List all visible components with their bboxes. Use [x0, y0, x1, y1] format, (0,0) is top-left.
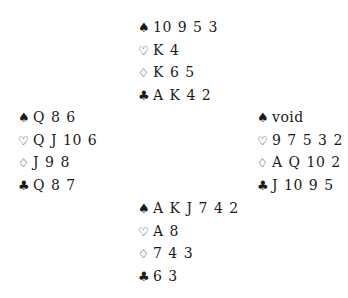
heart-icon: ♡	[18, 130, 33, 153]
south-hand: ♠A K J 7 4 2 ♡A 8 ♢7 4 3 ♣6 3	[138, 197, 239, 287]
north-hand: ♠10 9 5 3 ♡K 4 ♢K 6 5 ♣A K 4 2	[138, 16, 218, 106]
spade-icon: ♠	[138, 198, 153, 221]
west-hearts-row: ♡Q J 10 6	[18, 129, 97, 152]
west-hand: ♠Q 8 6 ♡Q J 10 6 ♢J 9 8 ♣Q 8 7	[18, 106, 97, 196]
east-diamonds-row: ♢A Q 10 2	[257, 151, 343, 174]
diamond-icon: ♢	[257, 152, 272, 175]
spade-icon: ♠	[257, 107, 272, 130]
club-icon: ♣	[257, 175, 272, 198]
east-clubs-row: ♣J 10 9 5	[257, 174, 343, 197]
east-spades-row: ♠void	[257, 106, 343, 129]
north-spades: 10 9 5 3	[153, 19, 218, 35]
north-clubs: A K 4 2	[153, 87, 211, 103]
south-spades-row: ♠A K J 7 4 2	[138, 197, 239, 220]
north-diamonds: K 6 5	[153, 64, 195, 80]
west-clubs: Q 8 7	[33, 177, 76, 193]
south-clubs-row: ♣6 3	[138, 265, 239, 288]
heart-icon: ♡	[138, 40, 153, 63]
diamond-icon: ♢	[18, 152, 33, 175]
west-diamonds: J 9 8	[33, 154, 70, 170]
east-hearts-row: ♡9 7 5 3 2	[257, 129, 343, 152]
east-spades: void	[272, 109, 304, 125]
west-diamonds-row: ♢J 9 8	[18, 151, 97, 174]
north-hearts: K 4	[153, 42, 179, 58]
diamond-icon: ♢	[138, 243, 153, 266]
diamond-icon: ♢	[138, 62, 153, 85]
east-clubs: J 10 9 5	[272, 177, 334, 193]
west-spades-row: ♠Q 8 6	[18, 106, 97, 129]
club-icon: ♣	[18, 175, 33, 198]
east-diamonds: A Q 10 2	[272, 154, 341, 170]
heart-icon: ♡	[257, 130, 272, 153]
club-icon: ♣	[138, 85, 153, 108]
north-diamonds-row: ♢K 6 5	[138, 61, 218, 84]
west-clubs-row: ♣Q 8 7	[18, 174, 97, 197]
spade-icon: ♠	[18, 107, 33, 130]
club-icon: ♣	[138, 266, 153, 289]
north-hearts-row: ♡K 4	[138, 39, 218, 62]
south-diamonds-row: ♢7 4 3	[138, 242, 239, 265]
east-hearts: 9 7 5 3 2	[272, 132, 343, 148]
west-hearts: Q J 10 6	[33, 132, 97, 148]
south-diamonds: 7 4 3	[153, 245, 193, 261]
spade-icon: ♠	[138, 17, 153, 40]
south-hearts-row: ♡A 8	[138, 220, 239, 243]
south-spades: A K J 7 4 2	[153, 200, 239, 216]
east-hand: ♠void ♡9 7 5 3 2 ♢A Q 10 2 ♣J 10 9 5	[257, 106, 343, 196]
heart-icon: ♡	[138, 221, 153, 244]
south-clubs: 6 3	[153, 268, 178, 284]
north-clubs-row: ♣A K 4 2	[138, 84, 218, 107]
north-spades-row: ♠10 9 5 3	[138, 16, 218, 39]
south-hearts: A 8	[153, 223, 179, 239]
west-spades: Q 8 6	[33, 109, 76, 125]
